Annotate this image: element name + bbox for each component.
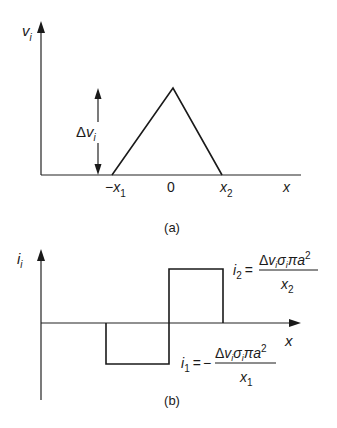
equation-i1: i1=− Δviσiπa2 x1 (181, 343, 276, 388)
panel-a: vi Δvi −x1 0 x2 x (a) (22, 21, 301, 235)
panel-a-y-axis-arrow-icon (37, 21, 45, 33)
panel-b-caption: (b) (164, 393, 180, 408)
eq-i2-denominator: x2 (280, 276, 294, 295)
equation-i2: i2= Δviσiπa2 x2 (233, 250, 318, 295)
panel-b: ii x i2= Δviσiπa2 x2 i1=− Δviσiπa2 x1 (b… (17, 249, 318, 408)
eq-i1-lhs: i1=− (181, 355, 211, 374)
eq-i2-numerator: Δviσiπa2 (259, 250, 311, 270)
figure: vi Δvi −x1 0 x2 x (a) ii x i2= Δv (0, 0, 337, 428)
panel-a-x-label: x (282, 179, 291, 195)
delta-arrow-up-icon (95, 88, 102, 99)
panel-b-x-axis-arrow-icon (289, 319, 301, 327)
tick-neg-x1: −x1 (105, 179, 126, 199)
eq-i1-denominator: x1 (239, 369, 253, 388)
delta-v-label: Δvi (76, 123, 97, 143)
figure-svg: vi Δvi −x1 0 x2 x (a) ii x i2= Δv (0, 0, 337, 428)
panel-b-y-label: ii (17, 250, 23, 270)
panel-b-y-axis-arrow-icon (37, 249, 45, 261)
panel-b-x-label: x (284, 332, 293, 349)
current-steps (106, 269, 223, 364)
tick-zero: 0 (167, 179, 175, 195)
triangle-pulse (112, 88, 222, 175)
eq-i1-numerator: Δviσiπa2 (215, 343, 267, 363)
eq-i2-lhs: i2= (233, 262, 253, 281)
panel-a-caption: (a) (164, 220, 180, 235)
delta-arrow-down-icon (95, 164, 102, 175)
tick-x2: x2 (219, 179, 233, 199)
panel-a-y-label: vi (22, 22, 33, 43)
